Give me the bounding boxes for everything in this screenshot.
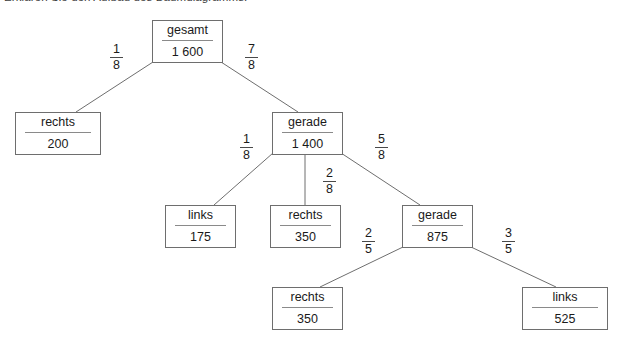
edge-fraction-gerade1400-gerade875: 5 8 xyxy=(375,133,388,162)
node-rechts-350-lower-value: 350 xyxy=(282,308,333,327)
fraction-denominator: 5 xyxy=(362,241,375,256)
node-rechts-350-upper[interactable]: rechts 350 xyxy=(270,205,341,248)
node-gerade-1400-value: 1 400 xyxy=(282,133,333,152)
fraction-denominator: 8 xyxy=(110,57,123,72)
tree-diagram-canvas: Erklären Sie den Aufbau des Baumdiagramm… xyxy=(0,0,626,360)
node-rechts-200-label: rechts xyxy=(25,114,91,133)
node-rechts-200-value: 200 xyxy=(25,133,91,152)
fraction-denominator: 8 xyxy=(245,57,258,72)
node-gerade-1400[interactable]: gerade 1 400 xyxy=(272,112,343,155)
node-links-175-label: links xyxy=(175,207,226,226)
exercise-caption: Erklären Sie den Aufbau des Baumdiagramm… xyxy=(4,0,247,3)
node-rechts-350-lower-label: rechts xyxy=(282,289,333,308)
edge-fraction-gerade1400-rechts350: 2 8 xyxy=(323,167,336,196)
edge-line-root-gerade1400 xyxy=(221,62,298,112)
node-gerade-875[interactable]: gerade 875 xyxy=(402,205,473,248)
node-links-525-label: links xyxy=(532,289,598,308)
node-rechts-350-upper-value: 350 xyxy=(280,226,331,245)
edge-fraction-gerade1400-links175: 1 8 xyxy=(240,133,253,162)
node-links-525[interactable]: links 525 xyxy=(522,287,608,330)
edge-fraction-gerade875-rechts350: 2 5 xyxy=(362,227,375,256)
node-gerade-875-label: gerade xyxy=(412,207,463,226)
node-gesamt-value: 1 600 xyxy=(162,41,213,60)
node-links-175[interactable]: links 175 xyxy=(165,205,236,248)
fraction-denominator: 8 xyxy=(375,147,388,162)
fraction-numerator: 3 xyxy=(502,227,515,241)
node-gerade-875-value: 875 xyxy=(412,226,463,245)
node-gesamt[interactable]: gesamt 1 600 xyxy=(152,20,223,63)
node-links-525-value: 525 xyxy=(532,308,598,327)
fraction-denominator: 8 xyxy=(323,181,336,196)
fraction-denominator: 8 xyxy=(240,147,253,162)
fraction-numerator: 2 xyxy=(362,227,375,241)
fraction-numerator: 7 xyxy=(245,43,258,57)
fraction-numerator: 1 xyxy=(240,133,253,147)
edge-fraction-gerade875-links525: 3 5 xyxy=(502,227,515,256)
node-rechts-200[interactable]: rechts 200 xyxy=(15,112,101,155)
edge-fraction-root-gerade1400: 7 8 xyxy=(245,43,258,72)
edge-fraction-root-rechts200: 1 8 xyxy=(110,43,123,72)
fraction-denominator: 5 xyxy=(502,241,515,256)
node-rechts-350-lower[interactable]: rechts 350 xyxy=(272,287,343,330)
fraction-numerator: 5 xyxy=(375,133,388,147)
node-gesamt-label: gesamt xyxy=(162,22,213,41)
node-gerade-1400-label: gerade xyxy=(282,114,333,133)
node-rechts-350-upper-label: rechts xyxy=(280,207,331,226)
fraction-numerator: 2 xyxy=(323,167,336,181)
node-links-175-value: 175 xyxy=(175,226,226,245)
fraction-numerator: 1 xyxy=(110,43,123,57)
